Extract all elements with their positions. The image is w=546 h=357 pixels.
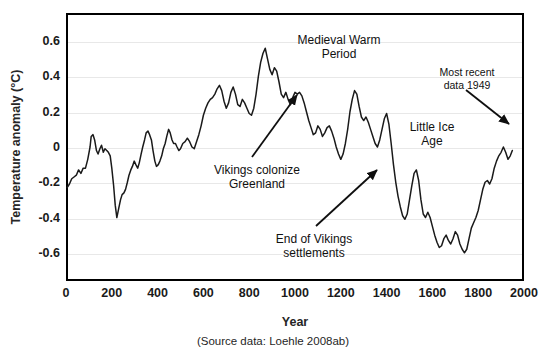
x-axis-title: Year [66, 315, 524, 329]
annotation-arrow-end-of-vikings-settlements [316, 170, 377, 226]
temperature-anomaly-chart: Temperature anomaly (°C) 0.60.40.20-0.2-… [0, 0, 546, 357]
annotation-arrow-most-recent-data-1949 [466, 90, 509, 124]
annotation-arrow-layer [0, 0, 546, 357]
annotation-arrow-vikings-colonize-greenland [252, 95, 297, 157]
source-note: (Source data: Loehle 2008ab) [0, 335, 546, 347]
